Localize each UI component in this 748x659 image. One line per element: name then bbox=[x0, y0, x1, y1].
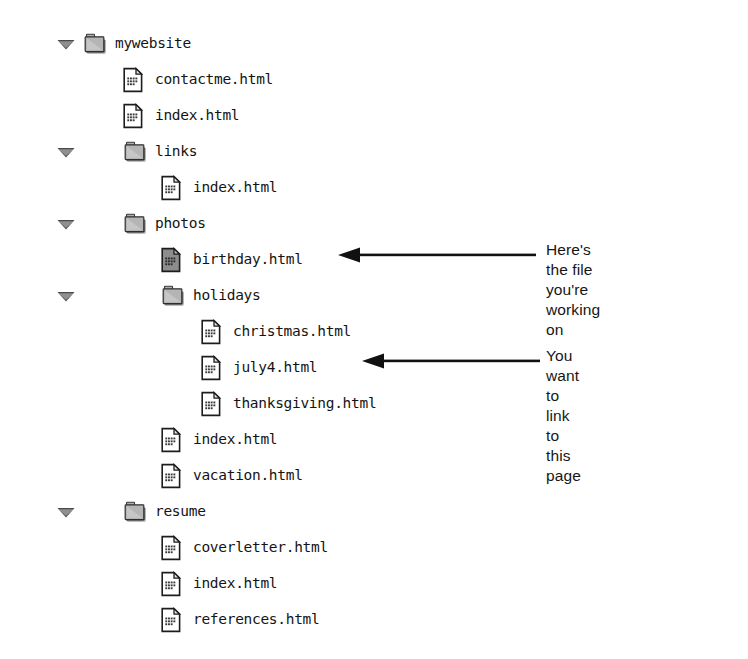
document-icon bbox=[160, 427, 184, 453]
document-icon bbox=[200, 319, 224, 345]
document-icon-selected bbox=[160, 247, 184, 273]
folder-icon bbox=[122, 499, 146, 525]
document-icon bbox=[160, 607, 184, 633]
tree-item-label: links bbox=[155, 144, 197, 160]
tree-item-label: contactme.html bbox=[155, 72, 273, 88]
arrow-left-icon bbox=[338, 246, 536, 264]
tree-file-row[interactable]: index.html bbox=[0, 170, 420, 206]
disclosure-triangle-down-icon[interactable] bbox=[56, 26, 76, 62]
tree-node[interactable]: index.html bbox=[122, 103, 239, 129]
tree-node[interactable]: july4.html bbox=[200, 355, 317, 381]
tree-node[interactable]: christmas.html bbox=[200, 319, 351, 345]
arrow-left-icon bbox=[362, 352, 540, 370]
tree-folder-row[interactable]: mywebsite bbox=[0, 26, 420, 62]
tree-item-label: coverletter.html bbox=[193, 540, 328, 556]
tree-folder-row[interactable]: links bbox=[0, 134, 420, 170]
tree-node[interactable]: mywebsite bbox=[82, 31, 191, 57]
tree-file-row[interactable]: index.html bbox=[0, 98, 420, 134]
tree-node[interactable]: contactme.html bbox=[122, 67, 273, 93]
folder-icon bbox=[160, 283, 184, 309]
tree-item-label: mywebsite bbox=[115, 36, 191, 52]
tree-item-label: christmas.html bbox=[233, 324, 351, 340]
tree-file-row[interactable]: thanksgiving.html bbox=[0, 386, 420, 422]
tree-folder-row[interactable]: resume bbox=[0, 494, 420, 530]
tree-node[interactable]: vacation.html bbox=[160, 463, 303, 489]
folder-icon bbox=[82, 31, 106, 57]
document-icon bbox=[122, 67, 146, 93]
tree-item-label: vacation.html bbox=[193, 468, 303, 484]
document-icon bbox=[200, 391, 224, 417]
document-icon bbox=[160, 175, 184, 201]
tree-node[interactable]: photos bbox=[122, 211, 206, 237]
tree-item-label: resume bbox=[155, 504, 206, 520]
tree-node[interactable]: index.html bbox=[160, 427, 277, 453]
tree-file-row[interactable]: contactme.html bbox=[0, 62, 420, 98]
tree-node[interactable]: links bbox=[122, 139, 197, 165]
tree-node[interactable]: thanksgiving.html bbox=[200, 391, 376, 417]
screenshot-canvas: mywebsitecontactme.htmlindex.htmllinksin… bbox=[0, 0, 748, 659]
tree-item-label: thanksgiving.html bbox=[233, 396, 376, 412]
tree-item-label: index.html bbox=[193, 576, 277, 592]
disclosure-triangle-down-icon[interactable] bbox=[56, 278, 76, 314]
document-icon bbox=[160, 571, 184, 597]
tree-node[interactable]: references.html bbox=[160, 607, 319, 633]
document-icon bbox=[122, 103, 146, 129]
tree-item-label: index.html bbox=[193, 432, 277, 448]
disclosure-triangle-down-icon[interactable] bbox=[56, 494, 76, 530]
folder-icon bbox=[122, 211, 146, 237]
tree-file-row[interactable]: index.html bbox=[0, 422, 420, 458]
tree-item-label: photos bbox=[155, 216, 206, 232]
tree-file-row[interactable]: references.html bbox=[0, 602, 420, 638]
tree-node[interactable]: index.html bbox=[160, 175, 277, 201]
tree-item-label: holidays bbox=[193, 288, 260, 304]
tree-file-row[interactable]: vacation.html bbox=[0, 458, 420, 494]
tree-file-row[interactable]: index.html bbox=[0, 566, 420, 602]
tree-node[interactable]: index.html bbox=[160, 571, 277, 597]
folder-icon bbox=[122, 139, 146, 165]
annotation-current-file-text: Here's the file you're working on bbox=[546, 240, 600, 340]
disclosure-triangle-down-icon[interactable] bbox=[56, 206, 76, 242]
tree-folder-row[interactable]: holidays bbox=[0, 278, 420, 314]
tree-node[interactable]: coverletter.html bbox=[160, 535, 328, 561]
tree-file-row[interactable]: coverletter.html bbox=[0, 530, 420, 566]
tree-file-row[interactable]: christmas.html bbox=[0, 314, 420, 350]
tree-file-row[interactable]: july4.html bbox=[0, 350, 420, 386]
tree-item-label: birthday.html bbox=[193, 252, 303, 268]
document-icon bbox=[200, 355, 224, 381]
tree-node[interactable]: holidays bbox=[160, 283, 260, 309]
tree-node[interactable]: birthday.html bbox=[160, 247, 303, 273]
tree-node[interactable]: resume bbox=[122, 499, 206, 525]
document-icon bbox=[160, 463, 184, 489]
disclosure-triangle-down-icon[interactable] bbox=[56, 134, 76, 170]
tree-item-label: july4.html bbox=[233, 360, 317, 376]
file-tree[interactable]: mywebsitecontactme.htmlindex.htmllinksin… bbox=[0, 26, 420, 638]
annotation-link-target-text: You want to link to this page bbox=[546, 346, 581, 486]
tree-folder-row[interactable]: photos bbox=[0, 206, 420, 242]
tree-item-label: index.html bbox=[193, 180, 277, 196]
document-icon bbox=[160, 535, 184, 561]
tree-item-label: index.html bbox=[155, 108, 239, 124]
tree-item-label: references.html bbox=[193, 612, 319, 628]
